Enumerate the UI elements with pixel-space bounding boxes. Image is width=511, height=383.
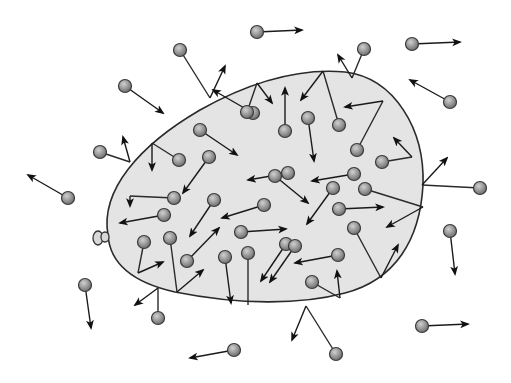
molecule-sphere-icon xyxy=(138,236,151,249)
gas-molecule-outside xyxy=(135,288,165,325)
molecule-sphere-icon xyxy=(152,312,165,325)
molecule-sphere-icon xyxy=(241,106,254,119)
gas-molecule-outside xyxy=(422,158,487,195)
molecule-sphere-icon xyxy=(235,226,248,239)
gas-molecule-outside xyxy=(406,38,461,51)
gas-molecule-outside xyxy=(444,225,457,275)
trajectory-line xyxy=(306,306,336,354)
molecule-sphere-icon xyxy=(194,124,207,137)
gas-molecule-outside xyxy=(79,279,92,329)
molecule-sphere-icon xyxy=(208,194,221,207)
molecule-sphere-icon xyxy=(181,255,194,268)
molecule-sphere-icon xyxy=(94,146,107,159)
molecule-sphere-icon xyxy=(173,154,186,167)
gas-molecule-outside xyxy=(251,26,303,39)
molecule-sphere-icon xyxy=(474,182,487,195)
molecule-sphere-icon xyxy=(168,192,181,205)
molecule-sphere-icon xyxy=(406,38,419,51)
balloon-knot-icon xyxy=(93,231,109,245)
balloon-gas-diagram: Gas molecules inside and outside a ballo… xyxy=(0,0,511,383)
gas-molecule-outside xyxy=(292,306,343,361)
trajectory-line xyxy=(422,185,480,188)
molecule-sphere-icon xyxy=(119,80,132,93)
molecule-sphere-icon xyxy=(348,222,361,235)
gas-molecule-outside xyxy=(28,175,75,205)
molecule-sphere-icon xyxy=(219,251,232,264)
molecule-sphere-icon xyxy=(203,151,216,164)
molecule-sphere-icon xyxy=(444,225,457,238)
diagram-canvas xyxy=(0,0,511,383)
molecule-sphere-icon xyxy=(279,125,292,138)
molecule-sphere-icon xyxy=(242,247,255,260)
molecule-sphere-icon xyxy=(164,232,177,245)
gas-molecule-outside xyxy=(119,80,164,114)
molecule-sphere-icon xyxy=(358,43,371,56)
molecule-sphere-icon xyxy=(251,26,264,39)
molecule-sphere-icon xyxy=(269,170,282,183)
molecule-sphere-icon xyxy=(306,276,319,289)
trajectory-line xyxy=(180,50,210,98)
molecule-sphere-icon xyxy=(376,156,389,169)
gas-molecule-outside xyxy=(94,137,131,162)
velocity-arrow-icon xyxy=(422,158,447,185)
molecule-sphere-icon xyxy=(333,203,346,216)
molecule-sphere-icon xyxy=(348,168,361,181)
molecule-sphere-icon xyxy=(282,167,295,180)
velocity-arrow-icon xyxy=(412,42,460,44)
molecule-sphere-icon xyxy=(62,192,75,205)
molecule-sphere-icon xyxy=(79,279,92,292)
molecule-sphere-icon xyxy=(416,320,429,333)
molecule-sphere-icon xyxy=(327,182,340,195)
gas-molecule-outside xyxy=(410,80,457,109)
balloon xyxy=(93,71,423,302)
molecule-sphere-icon xyxy=(174,44,187,57)
molecule-sphere-icon xyxy=(158,209,171,222)
velocity-arrow-icon xyxy=(135,288,158,305)
gas-molecule-outside xyxy=(416,320,469,333)
molecule-sphere-icon xyxy=(332,249,345,262)
molecule-sphere-icon xyxy=(333,119,346,132)
molecule-sphere-icon xyxy=(302,112,315,125)
molecule-sphere-icon xyxy=(258,199,271,212)
molecule-sphere-icon xyxy=(330,348,343,361)
velocity-arrow-icon xyxy=(292,306,306,340)
molecule-sphere-icon xyxy=(359,183,372,196)
molecule-sphere-icon xyxy=(351,144,364,157)
molecule-sphere-icon xyxy=(444,96,457,109)
velocity-arrow-icon xyxy=(123,137,130,162)
gas-molecule-outside xyxy=(174,44,226,99)
molecule-sphere-icon xyxy=(289,240,302,253)
molecule-sphere-icon xyxy=(228,344,241,357)
gas-molecule-outside xyxy=(190,344,241,359)
